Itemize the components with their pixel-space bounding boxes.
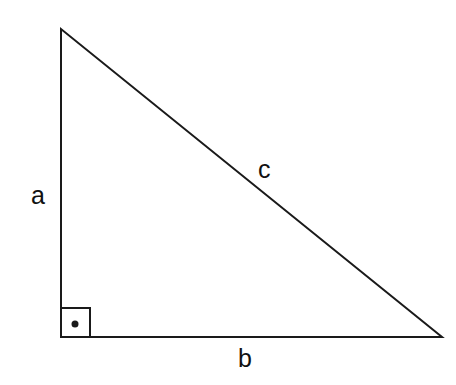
side-label-c: c	[258, 155, 271, 183]
right-angle-dot	[72, 321, 79, 328]
triangle-outline	[61, 29, 442, 337]
side-label-a: a	[31, 181, 45, 209]
side-label-b: b	[238, 344, 252, 372]
right-triangle-diagram: a b c	[0, 0, 456, 385]
